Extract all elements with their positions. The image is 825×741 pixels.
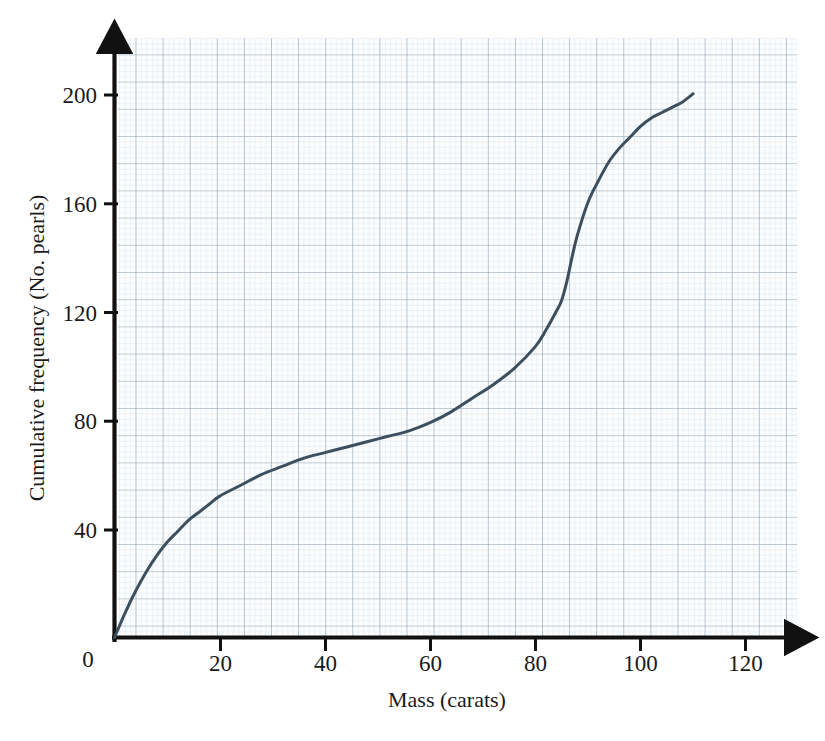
x-tick-label-0: 0 — [82, 647, 94, 672]
x-tick-label-100: 100 — [623, 651, 658, 676]
x-tick-labels: 0 20 40 60 80 100 120 — [82, 647, 763, 676]
chart-page: 200 160 120 80 40 0 20 40 60 80 100 120 … — [0, 0, 825, 741]
x-tick-label-40: 40 — [314, 651, 337, 676]
y-tick-labels: 200 160 120 80 40 — [63, 83, 98, 543]
y-tick-label-80: 80 — [74, 409, 97, 434]
y-tick-label-200: 200 — [63, 83, 98, 108]
y-tick-label-40: 40 — [74, 518, 97, 543]
plot-grid — [118, 38, 797, 637]
y-tick-label-120: 120 — [63, 301, 98, 326]
cumulative-frequency-chart: 200 160 120 80 40 0 20 40 60 80 100 120 … — [0, 0, 825, 741]
y-tick-label-160: 160 — [63, 192, 98, 217]
x-tick-label-120: 120 — [728, 651, 763, 676]
x-axis-title: Mass (carats) — [388, 687, 506, 712]
x-tick-label-80: 80 — [524, 651, 547, 676]
x-tick-label-20: 20 — [209, 651, 232, 676]
y-axis-title: Cumulative frequency (No. pearls) — [24, 195, 49, 502]
x-tick-label-60: 60 — [419, 651, 442, 676]
